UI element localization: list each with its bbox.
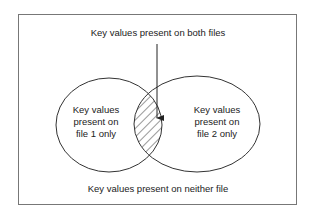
label-both-files: Key values present on both files — [91, 27, 226, 38]
label-file2-line3: file 2 only — [197, 128, 237, 139]
label-file2-line1: Key values — [194, 104, 241, 115]
label-neither-file: Key values present on neither file — [88, 183, 228, 194]
label-file1-line1: Key values — [73, 104, 120, 115]
label-file1-only: Key values present on file 1 only — [73, 104, 120, 139]
label-file2-only: Key values present on file 2 only — [194, 104, 241, 139]
label-file2-line2: present on — [195, 116, 240, 127]
venn-diagram: Key values present on both files Key val… — [0, 0, 313, 217]
label-file1-line2: present on — [74, 116, 119, 127]
label-file1-line3: file 1 only — [76, 128, 116, 139]
